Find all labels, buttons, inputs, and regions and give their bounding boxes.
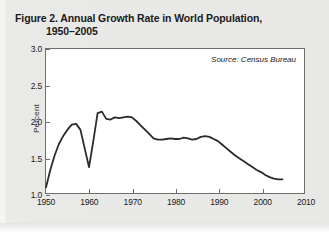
- x-axis-tick-label: 2000: [254, 197, 272, 207]
- x-axis-tick-label: 1960: [80, 197, 98, 207]
- growth-rate-line: [46, 49, 304, 193]
- y-axis-tick-label: 2.5: [31, 81, 42, 91]
- figure-page: Figure 2. Annual Growth Rate in World Po…: [0, 0, 329, 232]
- y-axis-tick-mark: [46, 122, 50, 123]
- x-axis-tick-mark: [133, 189, 134, 193]
- x-axis-tick-mark: [176, 189, 177, 193]
- x-axis-tick-label: 1970: [124, 197, 142, 207]
- plot-area: Percent Source: Census Bureau 1.01.52.02…: [45, 48, 305, 194]
- x-axis-tick-label: 1950: [37, 197, 55, 207]
- chart: Percent Source: Census Bureau 1.01.52.02…: [0, 0, 329, 232]
- y-axis-tick-mark: [46, 159, 50, 160]
- x-axis-tick-mark: [89, 189, 90, 193]
- y-axis-tick-label: 1.5: [31, 154, 42, 164]
- x-axis-tick-label: 1990: [210, 197, 228, 207]
- x-axis-tick-label: 2010: [297, 197, 315, 207]
- y-axis-tick-mark: [46, 49, 50, 50]
- y-axis-tick-mark: [46, 86, 50, 87]
- x-axis-tick-mark: [219, 189, 220, 193]
- x-axis-tick-mark: [263, 189, 264, 193]
- series-polyline: [46, 112, 282, 188]
- y-axis-tick-label: 2.0: [31, 117, 42, 127]
- y-axis-tick-mark: [46, 195, 50, 196]
- y-axis-tick-label: 3.0: [31, 44, 42, 54]
- x-axis-tick-label: 1980: [167, 197, 185, 207]
